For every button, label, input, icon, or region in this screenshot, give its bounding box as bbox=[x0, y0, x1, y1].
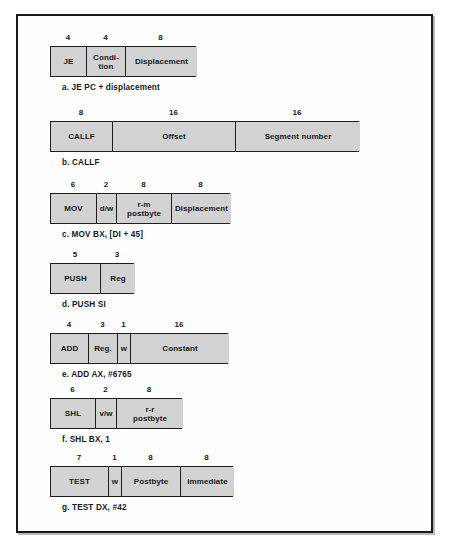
bit-width-label: 6 bbox=[70, 385, 74, 395]
instruction-bar-callf: CALLFOffsetSegment number bbox=[50, 121, 359, 152]
instruction-field-label: JE bbox=[63, 57, 75, 66]
instruction-field-label: d/w bbox=[99, 204, 115, 213]
instruction-field: Offset bbox=[113, 122, 236, 151]
bit-width-label: 8 bbox=[204, 453, 208, 463]
instruction-field-label: Segment number bbox=[264, 132, 333, 141]
bit-width-label: 8 bbox=[148, 453, 152, 463]
instruction-field: ADD bbox=[51, 334, 89, 363]
bit-width-label: 16 bbox=[169, 108, 178, 118]
instruction-field-label: w bbox=[111, 477, 119, 486]
instruction-field-label: CALLF bbox=[67, 132, 96, 141]
bit-width-label: 8 bbox=[141, 180, 145, 190]
instruction-field-label: Displacement bbox=[134, 57, 189, 66]
bit-width-label: 8 bbox=[198, 180, 202, 190]
instruction-field: r-r postbyte bbox=[117, 399, 183, 428]
bit-width-label: 5 bbox=[73, 250, 77, 260]
instruction-field: r-m postbyte bbox=[117, 194, 172, 223]
instruction-field-label: r-m postbyte bbox=[126, 200, 162, 218]
instruction-field: Reg bbox=[101, 264, 135, 293]
instruction-field-label: SHL bbox=[64, 409, 82, 418]
instruction-field-label: Immediate bbox=[186, 477, 228, 486]
instruction-field: Immediate bbox=[181, 467, 234, 496]
instruction-bar-test: TESTwPostbyteImmediate bbox=[50, 466, 233, 497]
instruction-field: CALLF bbox=[51, 122, 113, 151]
bit-width-label: 8 bbox=[79, 108, 83, 118]
bit-width-label: 4 bbox=[103, 33, 107, 43]
instruction-bar-add: ADDReg.wConstant bbox=[50, 333, 228, 364]
figure-caption-je: a. JE PC + displacement bbox=[62, 83, 160, 92]
bit-width-label: 3 bbox=[100, 320, 104, 330]
instruction-field: Displacement bbox=[126, 47, 197, 76]
instruction-field-label: v/w bbox=[98, 409, 113, 418]
bit-width-label: 16 bbox=[175, 320, 184, 330]
bit-width-label: 2 bbox=[104, 180, 108, 190]
instruction-field-label: TEST bbox=[68, 477, 91, 486]
instruction-field: JE bbox=[51, 47, 87, 76]
instruction-bar-shl: SHLv/wr-r postbyte bbox=[50, 398, 182, 429]
instruction-field: Displacement bbox=[172, 194, 231, 223]
instruction-field: Postbyte bbox=[122, 467, 181, 496]
instruction-field-label: w bbox=[120, 344, 128, 353]
figure-caption-callf: b. CALLF bbox=[62, 158, 100, 167]
instruction-field-label: Constant bbox=[161, 344, 198, 353]
instruction-field-label: Postbyte bbox=[133, 477, 170, 486]
instruction-field: d/w bbox=[97, 194, 117, 223]
figure-caption-add: e. ADD AX, #6765 bbox=[62, 370, 132, 379]
figure-caption-mov: c. MOV BX, [DI + 45] bbox=[62, 230, 143, 239]
bit-width-label: 6 bbox=[71, 180, 75, 190]
instruction-field-label: Reg. bbox=[93, 344, 113, 353]
instruction-field-label: PUSH bbox=[63, 274, 88, 283]
instruction-field: SHL bbox=[51, 399, 96, 428]
instruction-field-label: r-r postbyte bbox=[132, 405, 168, 423]
instruction-field: TEST bbox=[51, 467, 109, 496]
instruction-field-label: MOV bbox=[63, 204, 84, 213]
bit-width-label: 8 bbox=[158, 33, 162, 43]
instruction-field: MOV bbox=[51, 194, 97, 223]
instruction-field: v/w bbox=[96, 399, 117, 428]
instruction-field: Condi- tion bbox=[87, 47, 126, 76]
instruction-bar-push: PUSHReg bbox=[50, 263, 134, 294]
instruction-format-figure: 448JECondi- tionDisplacementa. JE PC + d… bbox=[0, 0, 449, 547]
instruction-field: w bbox=[118, 334, 131, 363]
scanned-page: 448JECondi- tionDisplacementa. JE PC + d… bbox=[0, 0, 449, 547]
instruction-field-label: ADD bbox=[60, 344, 80, 353]
bit-width-label: 7 bbox=[77, 453, 81, 463]
figure-caption-push: d. PUSH SI bbox=[62, 300, 106, 309]
instruction-field: Constant bbox=[131, 334, 229, 363]
instruction-field-label: Condi- tion bbox=[92, 53, 120, 71]
figure-caption-shl: f. SHL BX, 1 bbox=[62, 435, 110, 444]
instruction-field-label: Displacement bbox=[174, 204, 229, 213]
instruction-field: Reg. bbox=[89, 334, 118, 363]
figure-caption-test: g. TEST DX, #42 bbox=[62, 503, 127, 512]
bit-width-label: 8 bbox=[147, 385, 151, 395]
bit-width-label: 4 bbox=[67, 320, 71, 330]
bit-width-label: 3 bbox=[115, 250, 119, 260]
bit-width-label: 16 bbox=[293, 108, 302, 118]
instruction-bar-je: JECondi- tionDisplacement bbox=[50, 46, 196, 77]
bit-width-label: 1 bbox=[121, 320, 125, 330]
bit-width-label: 4 bbox=[66, 33, 70, 43]
instruction-field-label: Reg bbox=[109, 274, 126, 283]
instruction-field-label: Offset bbox=[161, 132, 187, 141]
instruction-bar-mov: MOVd/wr-m postbyteDisplacement bbox=[50, 193, 230, 224]
bit-width-label: 2 bbox=[103, 385, 107, 395]
instruction-field: w bbox=[109, 467, 122, 496]
instruction-field: Segment number bbox=[236, 122, 360, 151]
instruction-field: PUSH bbox=[51, 264, 101, 293]
bit-width-label: 1 bbox=[112, 453, 116, 463]
